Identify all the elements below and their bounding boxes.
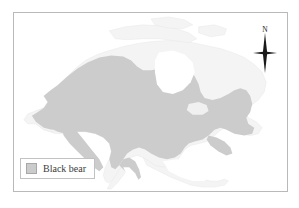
compass-rose: N xyxy=(252,25,278,73)
water-gulf-of-mexico xyxy=(163,159,211,181)
map-frame: Black bear N xyxy=(13,12,288,192)
map-legend: Black bear xyxy=(20,158,95,179)
landmass-arctic-island-3 xyxy=(199,25,227,37)
compass-north-arrow-icon xyxy=(252,33,278,73)
figure-root: Black bear N xyxy=(0,0,299,208)
legend-label-black-bear: Black bear xyxy=(43,163,86,174)
range-appalachia xyxy=(207,136,233,156)
legend-swatch-black-bear xyxy=(26,163,37,174)
